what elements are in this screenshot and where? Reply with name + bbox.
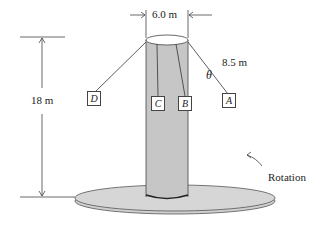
height-dimension: [20, 37, 75, 197]
diameter-label: 6.0 m: [152, 9, 177, 20]
height-label: 18 m: [31, 95, 53, 106]
rotation-arrow-icon: [247, 152, 262, 166]
rotation-label: Rotation: [268, 172, 306, 183]
seat-b: B: [178, 96, 192, 111]
seat-a: A: [222, 93, 236, 108]
angle-label: θ: [206, 69, 212, 81]
diagram-canvas: [0, 0, 317, 228]
cable-length-label: 8.5 m: [222, 57, 247, 68]
seat-d: D: [87, 91, 101, 106]
seat-c: C: [151, 96, 165, 111]
pole: [146, 35, 188, 199]
